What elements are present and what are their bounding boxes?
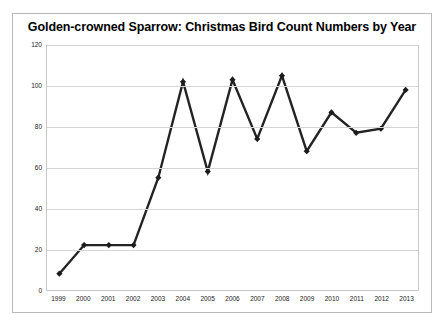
y-tick-label: 20 — [16, 247, 42, 254]
x-tick-label: 2003 — [151, 296, 165, 303]
y-axis: 020406080100120 — [13, 45, 42, 291]
page-top-margin — [0, 0, 444, 11]
y-tick-label: 120 — [16, 42, 42, 49]
x-tick-label: 1999 — [51, 296, 65, 303]
series-line — [59, 76, 405, 274]
y-tick-label: 40 — [16, 206, 42, 213]
chart-title: Golden-crowned Sparrow: Christmas Bird C… — [13, 20, 431, 34]
x-tick-label: 2004 — [176, 296, 190, 303]
x-tick-label: 2009 — [300, 296, 314, 303]
gridline-y-20 — [47, 250, 418, 251]
chart-container: Golden-crowned Sparrow: Christmas Bird C… — [12, 13, 432, 313]
x-tick-label: 2005 — [200, 296, 214, 303]
x-tick-label: 2006 — [225, 296, 239, 303]
y-tick-label: 100 — [16, 83, 42, 90]
x-tick-label: 2008 — [275, 296, 289, 303]
x-tick-label: 2012 — [374, 296, 388, 303]
y-tick-label: 80 — [16, 124, 42, 131]
gridline-y-120 — [47, 45, 418, 46]
y-tick-label: 0 — [16, 288, 42, 295]
gridline-y-80 — [47, 127, 418, 128]
data-point-marker — [279, 73, 285, 79]
data-point-marker — [155, 175, 161, 181]
data-point-marker — [205, 168, 211, 174]
x-tick-label: 2007 — [250, 296, 264, 303]
x-tick-label: 2002 — [126, 296, 140, 303]
plot-area — [46, 45, 419, 291]
gridline-y-60 — [47, 168, 418, 169]
x-axis: 1999200020012002200320042005200620072008… — [46, 294, 419, 308]
data-point-marker — [130, 242, 136, 248]
x-tick-label: 2000 — [76, 296, 90, 303]
x-tick-label: 2010 — [325, 296, 339, 303]
gridline-y-40 — [47, 209, 418, 210]
x-tick-label: 2013 — [399, 296, 413, 303]
y-tick-label: 60 — [16, 165, 42, 172]
data-point-marker — [180, 79, 186, 85]
x-tick-label: 2001 — [101, 296, 115, 303]
data-point-marker — [106, 242, 112, 248]
x-tick-label: 2011 — [350, 296, 364, 303]
gridline-y-100 — [47, 86, 418, 87]
